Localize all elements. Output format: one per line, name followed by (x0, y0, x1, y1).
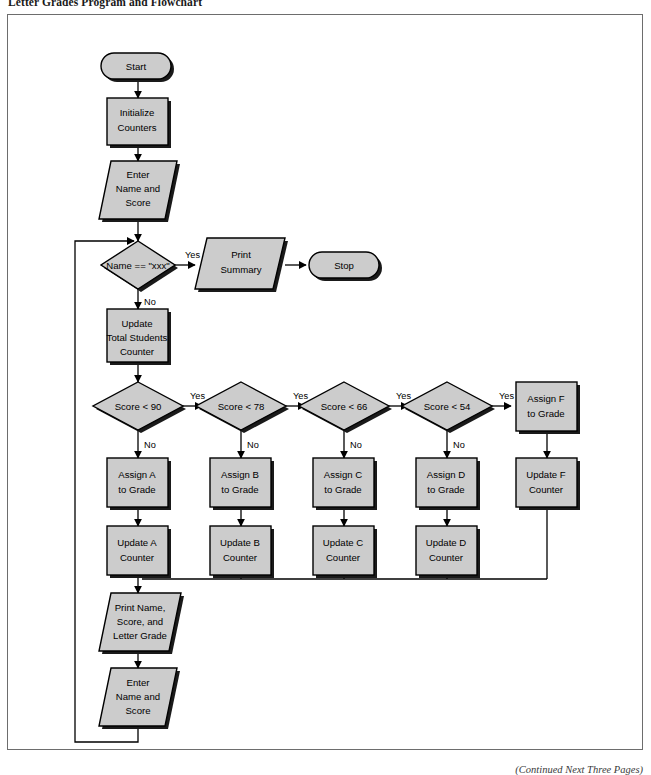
node-assign-a-line-1: to Grade (118, 484, 155, 495)
node-upd-b-line-0: Update B (220, 537, 260, 548)
node-decision-score-90[interactable]: Score < 90 (93, 382, 186, 433)
edge-label-no-78: No (247, 440, 259, 450)
edge-label-yes-sentinel: Yes (185, 250, 200, 260)
node-updtotal-line-0: Update (122, 318, 153, 329)
node-decision-sentinel-label: Name == "xxx" (106, 260, 169, 271)
edge-label-no-54: No (453, 440, 465, 450)
node-print-rec-line-2: Letter Grade (113, 630, 167, 641)
node-input1-line-2: Score (125, 197, 150, 208)
flowchart-canvas: Yes No Yes Yes Yes Yes No No No No Start… (8, 15, 642, 749)
node-upd-c-line-0: Update C (323, 537, 364, 548)
node-assign-b-line-0: Assign B (221, 469, 259, 480)
page-title: Letter Grades Program and Flowchart (8, 0, 202, 8)
edge-label-no-66: No (350, 440, 362, 450)
node-start-line-0: Start (126, 61, 147, 72)
node-upd-c-line-1: Counter (326, 552, 361, 563)
node-assign-c-line-1: to Grade (324, 484, 361, 495)
node-enter-name-score-bottom[interactable]: Enter Name and Score (99, 668, 180, 729)
node-decision-score-54[interactable]: Score < 54 (402, 382, 495, 433)
node-enter-name-score-top[interactable]: Enter Name and Score (99, 161, 180, 222)
node-upd-a-line-1: Counter (120, 552, 155, 563)
node-stop-label: Stop (334, 260, 354, 271)
edge-label-no-90: No (144, 440, 156, 450)
node-upd-d-line-0: Update D (426, 537, 467, 548)
node-start[interactable]: Start (101, 53, 174, 82)
node-assign-a-line-0: Assign A (118, 469, 156, 480)
node-print-record[interactable]: Print Name, Score, and Letter Grade (99, 593, 184, 654)
node-dec78-label: Score < 78 (218, 401, 265, 412)
node-input1-line-1: Name and (116, 183, 160, 194)
node-initialize-counters[interactable]: Initialize Counters (107, 98, 171, 148)
node-input2-line-1: Name and (116, 691, 160, 702)
node-assign-d-line-1: to Grade (427, 484, 464, 495)
node-decision-score-78[interactable]: Score < 78 (196, 382, 289, 433)
node-print-summary[interactable]: Print Summary (195, 238, 288, 292)
node-assign-c-line-0: Assign C (324, 469, 362, 480)
node-assign-c[interactable]: Assign C to Grade (313, 458, 377, 510)
node-assign-f-line-1: to Grade (527, 408, 564, 419)
node-update-f-counter[interactable]: Update F Counter (516, 458, 580, 510)
node-init-line-1: Counters (118, 122, 157, 133)
edge-label-yes-78: Yes (293, 391, 308, 401)
node-decision-score-66[interactable]: Score < 66 (299, 382, 392, 433)
node-input2-line-0: Enter (127, 677, 151, 688)
node-updtotal-line-1: Total Students (107, 332, 168, 343)
node-assign-f-line-0: Assign F (527, 393, 564, 404)
node-assign-b[interactable]: Assign B to Grade (210, 458, 274, 510)
node-update-c-counter[interactable]: Update C Counter (313, 526, 377, 578)
node-update-d-counter[interactable]: Update D Counter (416, 526, 480, 578)
node-print-summary-line-1: Summary (220, 264, 261, 275)
figure-caption: (Continued Next Three Pages) (515, 764, 643, 775)
edge-label-no-sentinel: No (144, 297, 156, 307)
node-update-a-counter[interactable]: Update A Counter (107, 526, 171, 578)
node-assign-a[interactable]: Assign A to Grade (107, 458, 171, 510)
node-dec66-label: Score < 66 (321, 401, 368, 412)
node-assign-d[interactable]: Assign D to Grade (416, 458, 480, 510)
node-upd-a-line-0: Update A (117, 537, 157, 548)
node-upd-d-line-1: Counter (429, 552, 464, 563)
node-print-summary-line-0: Print (231, 249, 251, 260)
node-input2-line-2: Score (125, 705, 150, 716)
node-update-total-students[interactable]: Update Total Students Counter (107, 309, 171, 365)
edge-label-yes-54: Yes (499, 391, 514, 401)
edge-label-yes-90: Yes (190, 391, 205, 401)
node-init-line-0: Initialize (120, 107, 155, 118)
node-stop[interactable]: Stop (309, 252, 382, 281)
figure-frame: Yes No Yes Yes Yes Yes No No No No Start… (7, 14, 643, 750)
node-assign-d-line-0: Assign D (427, 469, 465, 480)
node-update-b-counter[interactable]: Update B Counter (210, 526, 274, 578)
node-input1-line-0: Enter (127, 169, 151, 180)
edge-label-yes-66: Yes (396, 391, 411, 401)
node-dec54-label: Score < 54 (424, 401, 471, 412)
node-updtotal-line-2: Counter (120, 346, 155, 357)
node-upd-f-line-0: Update F (526, 469, 566, 480)
node-assign-b-line-1: to Grade (221, 484, 258, 495)
node-assign-f[interactable]: Assign F to Grade (516, 382, 580, 434)
node-dec90-label: Score < 90 (115, 401, 162, 412)
node-upd-f-line-1: Counter (529, 484, 564, 495)
node-upd-b-line-1: Counter (223, 552, 258, 563)
node-print-rec-line-0: Print Name, (115, 602, 166, 613)
node-print-rec-line-1: Score, and (117, 616, 163, 627)
node-decision-sentinel[interactable]: Name == "xxx" (101, 241, 178, 292)
